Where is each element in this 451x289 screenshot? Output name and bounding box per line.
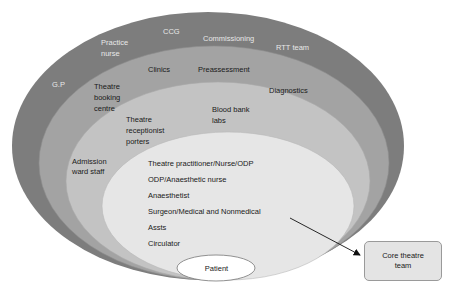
label-gp: G.P	[52, 80, 65, 90]
label-core-circulator: Circulator	[148, 239, 180, 249]
label-theatre-booking-line1: Theatre	[94, 82, 120, 92]
label-commissioning: Commissioning	[203, 34, 254, 44]
core-theatre-team-box: Core theatre team	[364, 241, 442, 281]
label-practice-nurse-line1: Practice	[101, 38, 128, 48]
label-blood-bank-line2: labs	[212, 116, 226, 126]
label-preassessment: Preassessment	[198, 65, 250, 75]
label-theatre-receptionist-line2: receptionist	[126, 126, 164, 136]
label-core-surgeon: Surgeon/Medical and Nonmedical	[148, 207, 261, 217]
core-team-label-line1: Core theatre	[382, 251, 424, 261]
core-team-label-line2: team	[382, 261, 424, 271]
label-admission-line2: ward staff	[72, 167, 104, 177]
label-practice-nurse-line2: nurse	[101, 49, 120, 59]
label-rtt-team: RTT team	[276, 43, 309, 53]
label-admission-line1: Admission	[72, 157, 107, 167]
label-theatre-receptionist-line3: porters	[126, 137, 149, 147]
label-core-anaesthetist: Anaesthetist	[148, 191, 189, 201]
label-ccg: CCG	[163, 27, 180, 37]
label-diagnostics: Diagnostics	[269, 86, 308, 96]
label-theatre-receptionist-line1: Theatre	[126, 115, 152, 125]
label-blood-bank-line1: Blood bank	[212, 105, 250, 115]
label-patient: Patient	[178, 256, 255, 281]
label-core-assts: Assts	[148, 223, 166, 233]
label-theatre-booking-line3: centre	[94, 104, 115, 114]
label-theatre-booking-line2: booking	[94, 93, 120, 103]
label-core-theatre-practitioner: Theatre practitioner/Nurse/ODP	[148, 159, 253, 169]
label-core-odp-anaesthetic-nurse: ODP/Anaesthetic nurse	[148, 175, 226, 185]
label-clinics: Clinics	[148, 65, 170, 75]
